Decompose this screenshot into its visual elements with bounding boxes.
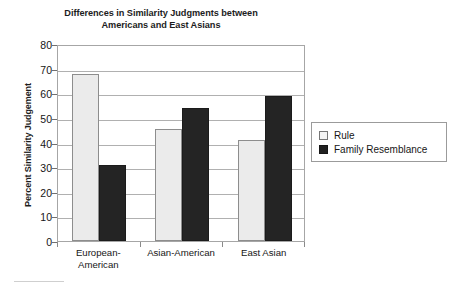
bar-family-resemblance-asian-american (182, 108, 209, 241)
bar-chart-figure: Differences in Similarity Judgments betw… (0, 0, 454, 289)
legend-item: Rule (319, 128, 440, 142)
scan-artifact-line (14, 281, 64, 282)
x-category-label: Asian-American (136, 247, 226, 259)
legend-item: Family Resemblance (319, 142, 440, 156)
legend-label: Family Resemblance (334, 144, 427, 155)
x-category-label-line: European- (53, 247, 143, 259)
y-tick-label: 70 (24, 64, 52, 75)
y-tick-label: 80 (24, 40, 52, 51)
legend-swatch-light (319, 131, 328, 140)
y-axis-tick-labels: 01020304050607080 (24, 45, 52, 242)
x-category-label: European-American (53, 247, 143, 270)
y-tick-label: 0 (24, 237, 52, 248)
bar-family-resemblance-east-asian (265, 96, 292, 241)
bar-rule-european-american (72, 74, 99, 241)
x-category-label-line: East Asian (219, 247, 309, 259)
x-axis-category-labels: European-AmericanAsian-AmericanEast Asia… (57, 247, 305, 287)
y-tick-label: 50 (24, 114, 52, 125)
y-tick-label: 60 (24, 89, 52, 100)
y-tick-label: 30 (24, 163, 52, 174)
chart-title-line-2: Americans and East Asians (36, 20, 286, 32)
plot-area (57, 45, 305, 242)
x-category-label: East Asian (219, 247, 309, 259)
legend-label: Rule (334, 130, 355, 141)
bar-family-resemblance-european-american (99, 165, 126, 241)
chart-title-line-1: Differences in Similarity Judgments betw… (36, 8, 286, 20)
gridline (58, 71, 304, 72)
chart-title: Differences in Similarity Judgments betw… (36, 8, 286, 31)
chart-legend: RuleFamily Resemblance (311, 122, 447, 162)
legend-swatch-dark (319, 145, 328, 154)
bar-rule-asian-american (155, 129, 182, 241)
y-tick-label: 10 (24, 212, 52, 223)
x-category-label-line: Asian-American (136, 247, 226, 259)
y-tick-label: 20 (24, 188, 52, 199)
x-category-label-line: American (53, 259, 143, 271)
y-tick-label: 40 (24, 138, 52, 149)
bar-rule-east-asian (238, 140, 265, 241)
plot-inner (58, 46, 304, 241)
